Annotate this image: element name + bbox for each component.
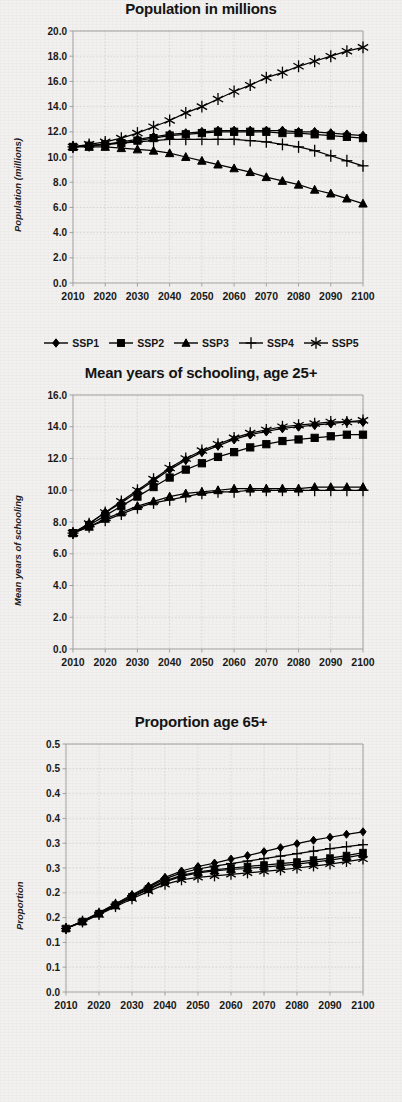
marker-square [118, 340, 125, 347]
y-tick-label: 2.0 [53, 612, 67, 623]
legend-item-ssp4[interactable]: SSP4 [238, 336, 294, 350]
x-tick-label: 2050 [190, 656, 214, 668]
legend-item-ssp1[interactable]: SSP1 [43, 336, 99, 350]
marker-diamond [343, 830, 349, 838]
chart-panel-schooling: Mean years of schooling, age 25+ Mean ye… [0, 364, 402, 699]
y-tick-label: 0.0 [46, 987, 60, 998]
y-tick-label: 16.0 [48, 390, 68, 401]
plot-area-proportion65: Proportion 0.00.10.10.20.20.30.30.40.40.… [0, 730, 402, 1040]
marker-plus [292, 848, 302, 859]
marker-asterisk [165, 115, 175, 127]
marker-plus [245, 135, 256, 147]
y-tick-label: 0.0 [53, 644, 67, 655]
y-tick-label: 0.4 [46, 813, 60, 824]
y-tick-label: 0.2 [46, 912, 60, 923]
x-tick-label: 2090 [319, 656, 343, 668]
x-tick-label: 2040 [153, 999, 177, 1011]
x-tick-label: 2100 [351, 656, 375, 668]
legend-population: SSP1SSP2SSP3SSP4SSP5 [0, 336, 402, 350]
marker-asterisk [197, 101, 207, 113]
plot-area-schooling: Mean years of schooling 0.02.04.06.08.01… [0, 381, 402, 699]
y-tick-label: 4.0 [53, 580, 67, 591]
series-SSP4 [61, 839, 368, 934]
x-tick-label: 2020 [87, 999, 111, 1011]
y-tick-label: 20.0 [48, 26, 68, 37]
x-tick-label: 2060 [222, 290, 246, 302]
legend-item-ssp5[interactable]: SSP5 [303, 336, 359, 350]
y-tick-label: 0.1 [46, 937, 60, 948]
x-tick-label: 2030 [126, 290, 150, 302]
marker-square [343, 431, 350, 438]
marker-square [214, 453, 221, 460]
marker-plus [309, 145, 320, 157]
y-tick-label: 8.0 [53, 177, 67, 188]
chart-panel-proportion65: Proportion age 65+ Proportion 0.00.10.10… [0, 713, 402, 1040]
x-tick-label: 2040 [158, 290, 182, 302]
marker-plus [341, 484, 352, 496]
x-tick-label: 2010 [61, 656, 85, 668]
marker-asterisk [148, 121, 158, 133]
marker-square [359, 431, 366, 438]
y-tick-label: 6.0 [53, 548, 67, 559]
y-tick-label: 0.5 [46, 739, 60, 750]
marker-square [279, 437, 286, 444]
y-tick-label: 0.5 [46, 763, 60, 774]
x-tick-label: 2020 [94, 290, 118, 302]
marker-plus [358, 839, 368, 850]
y-axis-label-schooling: Mean years of schooling [12, 495, 23, 606]
marker-plus [277, 138, 288, 150]
x-tick-label: 2070 [255, 290, 279, 302]
marker-diamond [360, 828, 366, 836]
plot-area-population: Population (millions) 0.02.04.06.08.010.… [0, 17, 402, 332]
marker-square [327, 132, 334, 139]
x-tick-label: 2090 [319, 290, 343, 302]
marker-asterisk [277, 67, 287, 79]
y-tick-label: 18.0 [48, 51, 68, 62]
marker-asterisk [326, 50, 336, 62]
legend-item-ssp2[interactable]: SSP2 [108, 336, 164, 350]
marker-plus [325, 484, 336, 496]
x-tick-label: 2020 [94, 656, 118, 668]
marker-square [295, 129, 302, 136]
x-tick-label: 2050 [186, 999, 210, 1011]
marker-plus [325, 150, 336, 162]
marker-plus [196, 487, 207, 499]
marker-asterisk [261, 72, 271, 84]
legend-label: SSP1 [72, 337, 99, 349]
chart-panel-population: Population in millions Population (milli… [0, 0, 402, 350]
marker-square [263, 441, 270, 448]
marker-diamond [277, 844, 283, 852]
marker-asterisk [293, 60, 303, 72]
x-tick-label: 2100 [351, 290, 375, 302]
marker-diamond [53, 339, 60, 347]
y-tick-label: 0.2 [46, 887, 60, 898]
page-title-population: Population in millions [0, 0, 402, 17]
marker-square [231, 449, 238, 456]
x-tick-label: 2010 [54, 999, 78, 1011]
marker-asterisk [245, 79, 255, 91]
x-tick-label: 2060 [219, 999, 243, 1011]
marker-square [263, 128, 270, 135]
y-axis-label-population: Population (millions) [12, 138, 23, 232]
x-tick-label: 2030 [120, 999, 144, 1011]
series-SSP5 [68, 414, 368, 539]
legend-marker-asterisk-icon [303, 336, 329, 350]
marker-square [343, 133, 350, 140]
marker-square [295, 436, 302, 443]
x-tick-label: 2030 [126, 656, 150, 668]
marker-asterisk [261, 424, 271, 436]
marker-asterisk [181, 107, 191, 119]
x-tick-label: 2050 [190, 290, 214, 302]
y-tick-label: 8.0 [53, 517, 67, 528]
chart-svg-proportion65: 0.00.10.10.20.20.30.30.40.40.50.52010202… [0, 730, 402, 1040]
marker-plus [213, 486, 224, 498]
x-tick-label: 2060 [222, 656, 246, 668]
legend-item-ssp3[interactable]: SSP3 [173, 336, 229, 350]
y-tick-label: 0.3 [46, 838, 60, 849]
marker-asterisk [229, 86, 239, 98]
marker-square [198, 460, 205, 467]
marker-plus [229, 486, 240, 498]
chart-svg-population: 0.02.04.06.08.010.012.014.016.018.020.02… [0, 17, 402, 332]
marker-plus [309, 846, 319, 857]
legend-marker-plus-icon [238, 336, 264, 350]
